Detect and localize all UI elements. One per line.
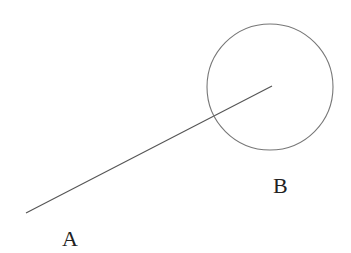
diagram-canvas: A B bbox=[0, 0, 351, 253]
label-point-b: B bbox=[273, 173, 288, 198]
label-point-a: A bbox=[62, 226, 78, 251]
line-segment-ab bbox=[26, 86, 272, 213]
